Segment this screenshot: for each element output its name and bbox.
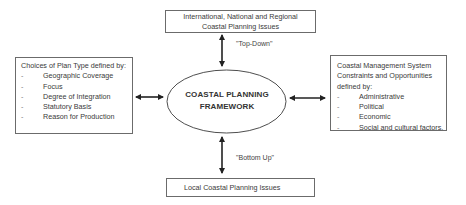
right-item-label: Administrative xyxy=(359,92,404,101)
left-box-item: -Degree of Integration xyxy=(21,92,132,102)
right-item-label: Political xyxy=(359,102,384,111)
bullet-dash: - xyxy=(21,102,23,112)
right-box-item: -Economic xyxy=(337,112,446,122)
coastal-planning-framework-label: COASTAL PLANNING FRAMEWORK xyxy=(167,89,287,112)
left-box-item: -Geographic Coverage xyxy=(21,71,132,81)
right-box-item: -Social and cultural factors. xyxy=(337,123,446,133)
center-line-1: COASTAL PLANNING xyxy=(167,89,287,101)
left-item-label: Geographic Coverage xyxy=(43,71,113,80)
left-box-heading: Choices of Plan Type defined by: xyxy=(21,61,132,71)
top-box-line-2: Coastal Planning Issues xyxy=(166,22,315,32)
bullet-dash: - xyxy=(21,112,23,122)
top-box-line-1: International, National and Regional xyxy=(166,12,315,22)
bullet-dash: - xyxy=(337,112,339,122)
bullet-dash: - xyxy=(337,102,339,112)
left-item-label: Reason for Production xyxy=(43,112,115,121)
bottom-up-label: "Bottom Up" xyxy=(236,154,274,161)
right-item-label: Social and cultural factors. xyxy=(359,123,443,132)
top-down-label: "Top-Down" xyxy=(236,40,272,47)
bullet-dash: - xyxy=(337,123,339,133)
center-line-2: FRAMEWORK xyxy=(167,101,287,113)
right-box-item: -Administrative xyxy=(337,92,446,102)
bullet-dash: - xyxy=(21,92,23,102)
right-box-heading-1: Coastal Management System xyxy=(337,61,446,71)
left-box-item: -Reason for Production xyxy=(21,112,132,122)
right-box-item: -Political xyxy=(337,102,446,112)
left-item-label: Statutory Basis xyxy=(43,102,91,111)
bullet-dash: - xyxy=(21,82,23,92)
right-box-heading-2: Constraints and Opportunities xyxy=(337,71,446,81)
left-item-label: Focus xyxy=(43,82,63,91)
left-item-label: Degree of Integration xyxy=(43,92,111,101)
bullet-dash: - xyxy=(21,71,23,81)
management-system-constraints-box: Coastal Management System Constraints an… xyxy=(330,55,447,131)
plan-type-choices-box: Choices of Plan Type defined by: -Geogra… xyxy=(15,57,133,134)
right-item-label: Economic xyxy=(359,112,391,121)
local-coastal-planning-issues-box: Local Coastal Planning Issues xyxy=(166,178,315,197)
bottom-box-text: Local Coastal Planning Issues xyxy=(184,183,280,192)
right-box-heading-3: defined by: xyxy=(337,82,446,92)
left-box-item: -Focus xyxy=(21,82,132,92)
bullet-dash: - xyxy=(337,92,339,102)
international-national-regional-issues-box: International, National and Regional Coa… xyxy=(165,10,316,33)
left-box-item: -Statutory Basis xyxy=(21,102,132,112)
